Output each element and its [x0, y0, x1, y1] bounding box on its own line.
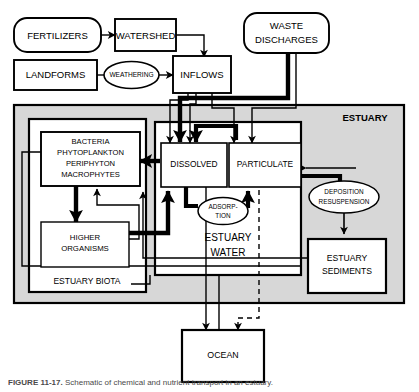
node-inflows-label: INFLOWS — [180, 69, 223, 80]
node-landforms[interactable]: LANDFORMS — [14, 60, 97, 90]
node-weathering[interactable]: WEATHERING — [104, 62, 159, 89]
node-fertilizers[interactable]: FERTILIZERS — [14, 18, 101, 52]
node-watershed[interactable]: WATERSHED — [115, 19, 176, 51]
node-estuary-sediments[interactable]: ESTUARY SEDIMENTS — [308, 239, 386, 293]
node-adsorption[interactable]: ADSORP- TION — [198, 198, 248, 225]
edge-watershed-inflows — [176, 35, 204, 57]
node-watershed-label: WATERSHED — [116, 30, 176, 41]
node-ocean[interactable]: OCEAN — [182, 330, 264, 382]
estuary-water-label-line2: WATER — [211, 247, 246, 258]
estuary-label: ESTUARY — [342, 112, 388, 123]
node-ocean-label: OCEAN — [207, 350, 238, 360]
node-particulate[interactable]: PARTICULATE — [229, 143, 301, 187]
node-waste-discharges-label-line1: WASTE — [270, 20, 303, 31]
node-fertilizers-label: FERTILIZERS — [27, 30, 88, 41]
node-dissolved-label: DISSOLVED — [170, 159, 217, 169]
node-adsorption-line2: TION — [215, 212, 231, 219]
figure-caption-label: FIGURE 11-17. — [8, 378, 63, 387]
node-inflows[interactable]: INFLOWS — [173, 56, 231, 93]
node-deposition-line1: DEPOSITION — [324, 188, 364, 195]
estuary-flow-diagram: ESTUARY ESTUARY BIOTA ESTUARY WATER — [0, 0, 419, 392]
node-primary-producers[interactable]: BACTERIA PHYTOPLANKTON PERIPHYTON MACROP… — [41, 132, 140, 186]
node-higher-organisms-line2: ORGANISMS — [61, 244, 109, 253]
node-adsorption-line1: ADSORP- — [208, 203, 237, 210]
node-landforms-label: LANDFORMS — [26, 69, 86, 80]
node-deposition-line2: RESUSPENSION — [319, 198, 370, 205]
node-weathering-label: WEATHERING — [109, 71, 153, 78]
node-waste-discharges[interactable]: WASTE DISCHARGES — [244, 13, 329, 53]
estuary-water-label-line1: ESTUARY — [204, 232, 251, 243]
node-primary-producers-line4: MACROPHYTES — [61, 170, 120, 179]
node-higher-organisms-line1: HIGHER — [70, 233, 101, 242]
figure-caption-text: Schematic of chemical and nutrient trans… — [63, 378, 273, 387]
node-estuary-sediments-line1: ESTUARY — [327, 253, 368, 263]
figure-canvas: ESTUARY ESTUARY BIOTA ESTUARY WATER — [0, 0, 419, 392]
node-primary-producers-line1: BACTERIA — [72, 137, 111, 146]
node-particulate-label: PARTICULATE — [237, 159, 294, 169]
node-higher-organisms[interactable]: HIGHER ORGANISMS — [41, 222, 129, 267]
node-primary-producers-line3: PERIPHYTON — [66, 159, 115, 168]
node-primary-producers-line2: PHYTOPLANKTON — [57, 148, 124, 157]
node-deposition-resuspension[interactable]: DEPOSITION RESUSPENSION — [309, 181, 379, 213]
node-estuary-sediments-line2: SEDIMENTS — [322, 266, 372, 276]
estuary-biota-label: ESTUARY BIOTA — [53, 276, 120, 286]
node-dissolved[interactable]: DISSOLVED — [161, 143, 227, 187]
figure-caption: FIGURE 11-17. Schematic of chemical and … — [8, 378, 412, 388]
node-waste-discharges-label-line2: DISCHARGES — [255, 34, 318, 45]
